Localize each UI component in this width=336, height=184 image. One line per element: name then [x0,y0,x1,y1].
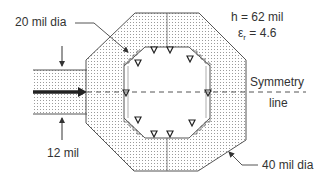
symmetry-label-line2: line [269,97,288,110]
feedline-width-label: 12 mil [47,147,79,160]
permittivity-label: εr = 4.6 [238,27,276,44]
outer-dia-leader [229,152,258,165]
outer-diameter-label: 40 mil dia [262,159,313,172]
inner-diameter-label: 20 mil dia [15,16,66,29]
substrate-height-label: h = 62 mil [231,11,283,24]
permittivity-value: = 4.6 [246,26,276,40]
via-transition-diagram: 20 mil dia h = 62 mil εr = 4.6 Symmetry … [0,0,336,184]
symmetry-label-line1: Symmetry [250,76,304,89]
